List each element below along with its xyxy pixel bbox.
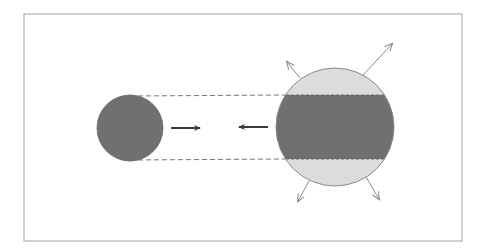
fragment-arrow-upper-left-icon [287,62,300,78]
dense-band [270,95,400,159]
dashed-guide-bottom [130,159,285,160]
fragment-arrow-lower-right-icon [366,177,379,199]
dashed-guide-top [130,95,285,96]
small-dense-sphere [97,95,163,161]
fragment-arrow-upper-right-icon [363,44,392,75]
fragment-arrow-lower-left-icon [298,181,309,201]
large-sphere [270,68,400,186]
collision-diagram [0,0,485,249]
